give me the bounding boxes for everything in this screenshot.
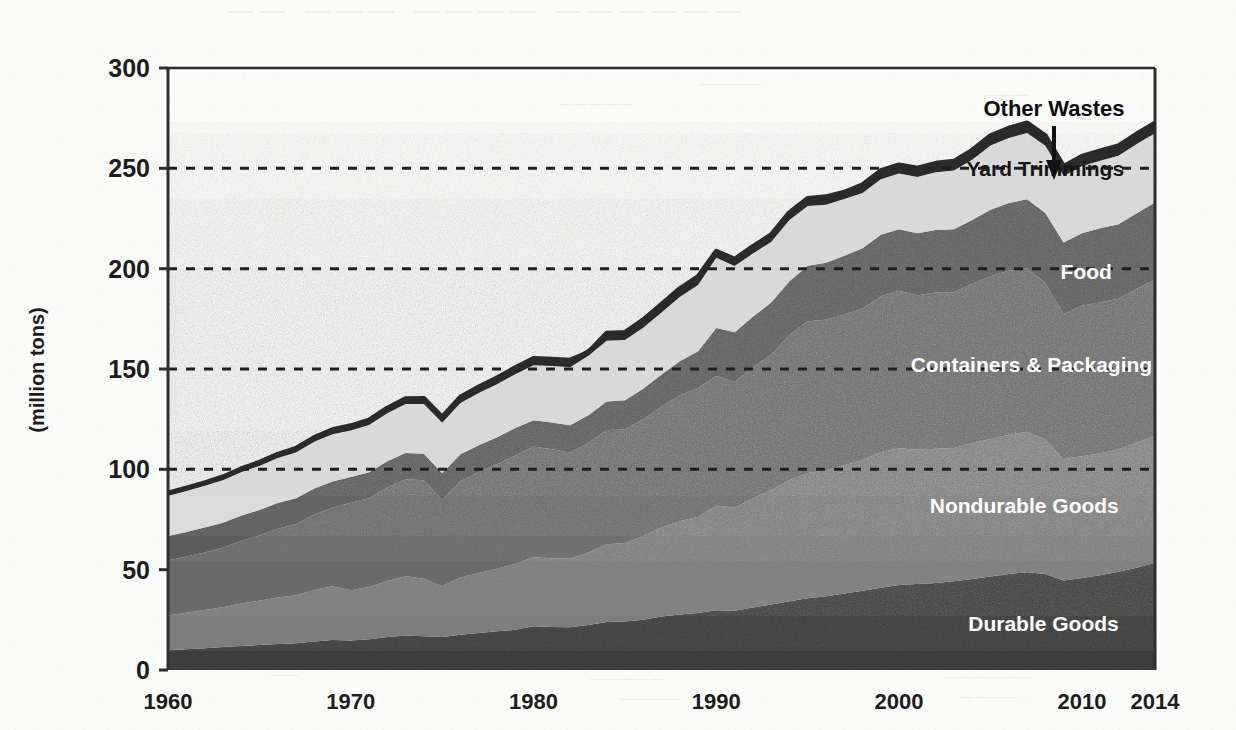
y-tick-label-300: 300 <box>108 54 150 82</box>
x-tick-label-2010: 2010 <box>1057 689 1106 714</box>
y-tick-label-200: 200 <box>108 255 150 283</box>
y-axis-title: (million tons) <box>26 307 48 433</box>
series-label-durable-goods: Durable Goods <box>968 612 1119 635</box>
y-tick-label-150: 150 <box>108 355 150 383</box>
y-tick-label-0: 0 <box>136 656 150 684</box>
chart-canvas: 050100150200250300 196019701980199020002… <box>0 0 1236 730</box>
x-tick-label-1980: 1980 <box>509 689 558 714</box>
y-tick-label-250: 250 <box>108 154 150 182</box>
series-label-nondurable-goods: Nondurable Goods <box>930 494 1119 517</box>
svg-text:Other Wastes: Other Wastes <box>983 96 1124 121</box>
x-axis-ticks: 1960197019801990200020102014 <box>144 689 1181 714</box>
y-tick-label-50: 50 <box>122 556 150 584</box>
y-axis-ticks: 050100150200250300 <box>108 54 168 684</box>
x-tick-label-1970: 1970 <box>326 689 375 714</box>
stacked-areas-group <box>168 123 1155 670</box>
x-tick-label-1960: 1960 <box>144 689 193 714</box>
y-tick-label-100: 100 <box>108 455 150 483</box>
series-label-yard-trimmings: Yard Trimmings <box>967 157 1125 180</box>
series-label-containers-packaging: Containers & Packaging <box>911 353 1153 376</box>
series-label-food: Food <box>1061 260 1112 283</box>
x-tick-label-2014: 2014 <box>1131 689 1181 714</box>
x-tick-label-1990: 1990 <box>692 689 741 714</box>
stacked-area-chart: 050100150200250300 196019701980199020002… <box>0 0 1236 730</box>
x-tick-label-2000: 2000 <box>875 689 924 714</box>
